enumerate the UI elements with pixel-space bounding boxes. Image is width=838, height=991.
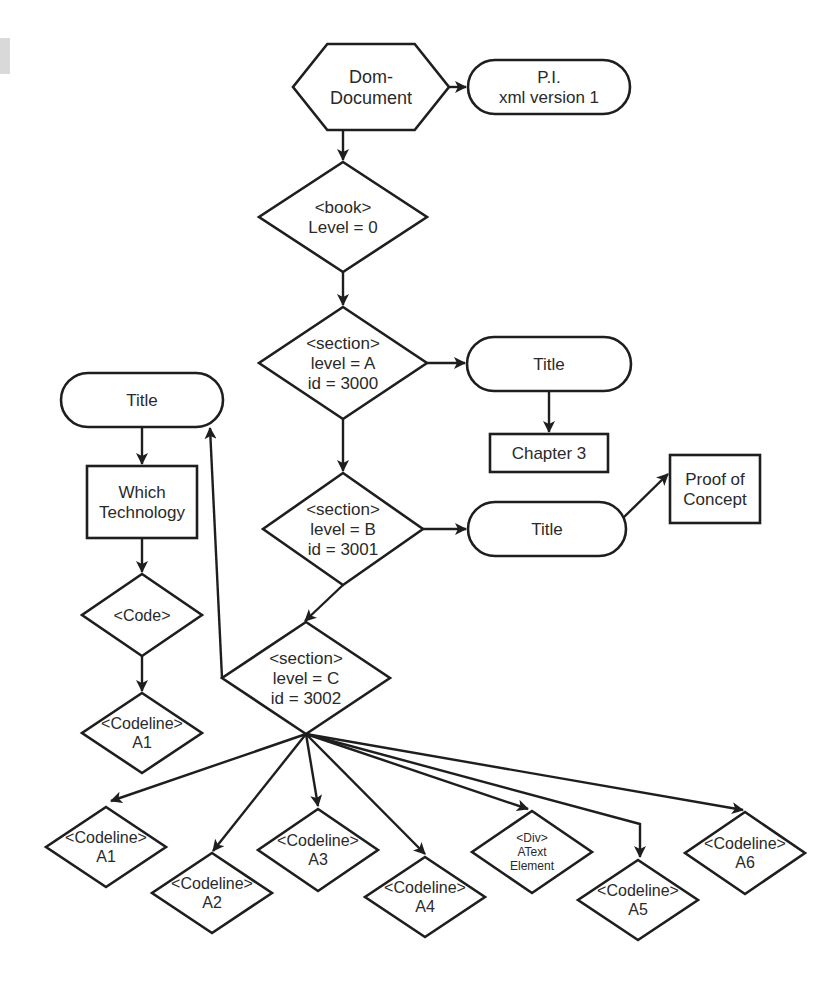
node-label: id = 3000: [308, 374, 378, 393]
node-cl_left: <Codeline>A1: [82, 693, 202, 773]
node-label: Document: [330, 88, 412, 108]
node-label: Title: [533, 355, 565, 374]
node-titleB: Title: [468, 502, 626, 556]
node-label: id = 3001: [308, 540, 378, 559]
node-label: Element: [510, 859, 555, 873]
node-cl_a6: <Codeline>A6: [685, 812, 805, 894]
node-label: level = A: [311, 354, 376, 373]
diamond-shape: [258, 809, 378, 891]
node-label: <Div>: [516, 831, 547, 845]
node-label: A5: [628, 901, 648, 918]
node-secA: <section>level = Aid = 3000: [259, 307, 427, 419]
node-label: A1: [132, 734, 152, 751]
node-code: <Code>: [82, 574, 202, 656]
diamond-shape: [578, 860, 698, 940]
node-layer: Dom-DocumentP.I.xml version 1<book>Level…: [46, 44, 805, 940]
diamond-shape: [82, 693, 202, 773]
edge-secC-to-titleL: [210, 428, 222, 678]
node-label: Concept: [683, 490, 747, 509]
node-dom: Dom-Document: [293, 44, 449, 130]
node-label: Chapter 3: [512, 444, 587, 463]
diamond-shape: [685, 812, 805, 894]
node-label: A6: [735, 854, 755, 871]
node-label: AText: [517, 845, 547, 859]
node-label: Which: [118, 483, 165, 502]
edge-secB-to-secC: [305, 585, 343, 621]
node-label: Level = 0: [308, 218, 377, 237]
node-label: A2: [202, 894, 222, 911]
node-proof: Proof ofConcept: [670, 455, 760, 523]
node-label: <section>: [306, 334, 380, 353]
dom-tree-diagram: Dom-DocumentP.I.xml version 1<book>Level…: [0, 0, 838, 991]
node-label: level = B: [310, 520, 376, 539]
node-label: <Codeline>: [171, 875, 253, 892]
node-label: Title: [126, 391, 158, 410]
node-label: Technology: [99, 503, 186, 522]
node-titleA: Title: [467, 337, 631, 391]
node-label: Title: [531, 520, 563, 539]
hexagon-shape: [293, 44, 449, 130]
node-book: <book>Level = 0: [259, 162, 427, 272]
node-cl_a5: <Codeline>A5: [578, 860, 698, 940]
node-which: WhichTechnology: [87, 466, 197, 538]
node-label: id = 3002: [271, 689, 341, 708]
diamond-shape: [365, 857, 485, 937]
node-label: <section>: [269, 649, 343, 668]
node-label: <Codeline>: [704, 835, 786, 852]
edge-titleB-to-proof: [622, 474, 668, 519]
node-label: <book>: [315, 198, 372, 217]
node-cl_a1: <Codeline>A1: [46, 807, 166, 887]
node-label: A1: [96, 848, 116, 865]
node-div: <Div>ATextElement: [472, 811, 592, 893]
diamond-shape: [152, 853, 272, 933]
node-label: P.I.: [537, 68, 560, 87]
node-label: <section>: [306, 500, 380, 519]
page-margin-shading: [0, 38, 10, 74]
node-titleL: Title: [61, 373, 223, 427]
node-label: <Codeline>: [597, 882, 679, 899]
node-label: <Codeline>: [65, 829, 147, 846]
node-chapter3: Chapter 3: [490, 434, 608, 472]
node-cl_a4: <Codeline>A4: [365, 857, 485, 937]
node-label: Dom-: [349, 67, 393, 87]
node-label: A4: [415, 898, 435, 915]
node-label: <Codeline>: [277, 832, 359, 849]
diamond-shape: [46, 807, 166, 887]
node-label: A3: [308, 851, 328, 868]
node-label: <Codeline>: [101, 715, 183, 732]
node-label: <Codeline>: [384, 879, 466, 896]
node-cl_a3: <Codeline>A3: [258, 809, 378, 891]
node-pi: P.I.xml version 1: [468, 60, 630, 114]
node-cl_a2: <Codeline>A2: [152, 853, 272, 933]
edge-layer: [111, 87, 743, 857]
node-label: Proof of: [685, 470, 745, 489]
node-label: level = C: [273, 669, 340, 688]
node-secC: <section>level = Cid = 3002: [222, 622, 390, 734]
node-label: <Code>: [114, 607, 171, 624]
node-secB: <section>level = Bid = 3001: [263, 473, 423, 585]
node-label: xml version 1: [499, 88, 599, 107]
edge-secC-to-div: [306, 734, 528, 809]
